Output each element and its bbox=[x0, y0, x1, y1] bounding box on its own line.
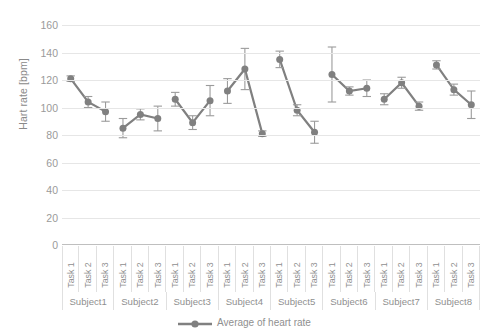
plot-area bbox=[62, 25, 480, 245]
x-tick-Subject4-Task3: Task 3 bbox=[254, 246, 271, 292]
chart-container: Hart rate [bpm] 160140120100806040200 Ta… bbox=[0, 0, 489, 336]
x-tick-label: Task 3 bbox=[361, 262, 371, 287]
x-tick-Subject3-Task2: Task 2 bbox=[184, 246, 201, 292]
data-point bbox=[189, 119, 196, 126]
x-tick-Subject2-Task3: Task 3 bbox=[149, 246, 166, 292]
x-tick-label: Task 3 bbox=[257, 262, 267, 287]
y-tick-20: 20 bbox=[18, 212, 58, 224]
data-point bbox=[381, 96, 388, 103]
x-tick-label: Task 3 bbox=[414, 262, 424, 287]
y-axis-tick-labels: 160140120100806040200 bbox=[14, 0, 58, 336]
x-tick-label: Task 3 bbox=[100, 262, 110, 287]
data-point bbox=[172, 96, 179, 103]
x-tick-Subject8-Task3: Task 3 bbox=[463, 246, 480, 292]
data-point bbox=[102, 108, 109, 115]
x-tick-label: Task 1 bbox=[431, 262, 441, 287]
x-axis-line bbox=[62, 244, 480, 245]
x-tick-Subject1-Task1: Task 1 bbox=[62, 246, 79, 292]
x-tick-Subject7-Task1: Task 1 bbox=[376, 246, 393, 292]
legend-marker-icon bbox=[178, 316, 212, 328]
gridline-140 bbox=[62, 53, 480, 54]
line-segment-Subject5 bbox=[280, 59, 315, 132]
x-group-label-Subject6: Subject6 bbox=[323, 292, 375, 310]
data-point bbox=[416, 103, 423, 110]
x-group-label-Subject3: Subject3 bbox=[167, 292, 219, 310]
x-tick-Subject6-Task2: Task 2 bbox=[341, 246, 358, 292]
x-tick-Subject1-Task2: Task 2 bbox=[79, 246, 96, 292]
x-group-label-Subject8: Subject8 bbox=[428, 292, 480, 310]
data-point bbox=[328, 71, 335, 78]
gridline-160 bbox=[62, 25, 480, 26]
data-point bbox=[154, 115, 161, 122]
data-point bbox=[363, 85, 370, 92]
x-tick-label: Task 2 bbox=[187, 262, 197, 287]
y-tick-140: 140 bbox=[18, 47, 58, 59]
gridline-120 bbox=[62, 80, 480, 81]
data-point bbox=[346, 88, 353, 95]
x-axis-task-band: Task 1Task 2Task 3Task 1Task 2Task 3Task… bbox=[62, 246, 480, 292]
x-tick-label: Task 3 bbox=[466, 262, 476, 287]
data-point bbox=[67, 75, 74, 82]
x-tick-label: Task 1 bbox=[170, 262, 180, 287]
data-point bbox=[450, 86, 457, 93]
gridline-100 bbox=[62, 108, 480, 109]
gridline-80 bbox=[62, 135, 480, 136]
x-tick-label: Task 3 bbox=[309, 262, 319, 287]
y-tick-160: 160 bbox=[18, 19, 58, 31]
x-tick-label: Task 3 bbox=[205, 262, 215, 287]
x-tick-label: Task 2 bbox=[135, 262, 145, 287]
x-tick-Subject7-Task3: Task 3 bbox=[410, 246, 427, 292]
x-tick-Subject6-Task3: Task 3 bbox=[358, 246, 375, 292]
gridline-20 bbox=[62, 218, 480, 219]
x-tick-label: Task 1 bbox=[222, 262, 232, 287]
data-point bbox=[241, 66, 248, 73]
x-tick-Subject5-Task1: Task 1 bbox=[271, 246, 288, 292]
x-tick-label: Task 2 bbox=[239, 262, 249, 287]
x-tick-Subject5-Task3: Task 3 bbox=[306, 246, 323, 292]
x-tick-Subject8-Task2: Task 2 bbox=[445, 246, 462, 292]
data-point bbox=[207, 97, 214, 104]
y-tick-0: 0 bbox=[18, 239, 58, 251]
x-tick-Subject4-Task1: Task 1 bbox=[219, 246, 236, 292]
x-tick-Subject5-Task2: Task 2 bbox=[288, 246, 305, 292]
x-tick-label: Task 2 bbox=[344, 262, 354, 287]
gridline-60 bbox=[62, 163, 480, 164]
x-tick-label: Task 2 bbox=[448, 262, 458, 287]
data-point bbox=[85, 99, 92, 106]
x-group-label-Subject2: Subject2 bbox=[114, 292, 166, 310]
x-tick-label: Task 1 bbox=[274, 262, 284, 287]
x-group-label-Subject1: Subject1 bbox=[62, 292, 114, 310]
x-group-label-Subject5: Subject5 bbox=[271, 292, 323, 310]
x-tick-Subject3-Task1: Task 1 bbox=[167, 246, 184, 292]
data-point bbox=[259, 130, 266, 137]
x-tick-label: Task 2 bbox=[83, 262, 93, 287]
gridline-40 bbox=[62, 190, 480, 191]
y-tick-80: 80 bbox=[18, 129, 58, 141]
y-tick-40: 40 bbox=[18, 184, 58, 196]
x-tick-Subject8-Task1: Task 1 bbox=[428, 246, 445, 292]
data-point bbox=[224, 88, 231, 95]
x-tick-Subject1-Task3: Task 3 bbox=[97, 246, 114, 292]
x-tick-label: Task 1 bbox=[326, 262, 336, 287]
x-tick-Subject6-Task1: Task 1 bbox=[323, 246, 340, 292]
data-point bbox=[276, 56, 283, 63]
data-point bbox=[137, 111, 144, 118]
y-tick-120: 120 bbox=[18, 74, 58, 86]
data-point bbox=[119, 125, 126, 132]
data-point bbox=[433, 61, 440, 68]
x-group-label-Subject7: Subject7 bbox=[376, 292, 428, 310]
x-tick-label: Task 2 bbox=[396, 262, 406, 287]
x-tick-Subject3-Task3: Task 3 bbox=[201, 246, 218, 292]
y-tick-100: 100 bbox=[18, 102, 58, 114]
legend-label: Average of heart rate bbox=[217, 317, 311, 328]
x-tick-label: Task 1 bbox=[117, 262, 127, 287]
x-tick-Subject2-Task2: Task 2 bbox=[132, 246, 149, 292]
x-tick-label: Task 3 bbox=[152, 262, 162, 287]
x-tick-label: Task 1 bbox=[379, 262, 389, 287]
y-tick-60: 60 bbox=[18, 157, 58, 169]
x-tick-Subject4-Task2: Task 2 bbox=[236, 246, 253, 292]
x-group-label-Subject4: Subject4 bbox=[219, 292, 271, 310]
x-axis-subject-band: Subject1Subject2Subject3Subject4Subject5… bbox=[62, 292, 480, 310]
x-tick-label: Task 1 bbox=[66, 262, 76, 287]
chart-legend: Average of heart rate bbox=[0, 312, 489, 332]
